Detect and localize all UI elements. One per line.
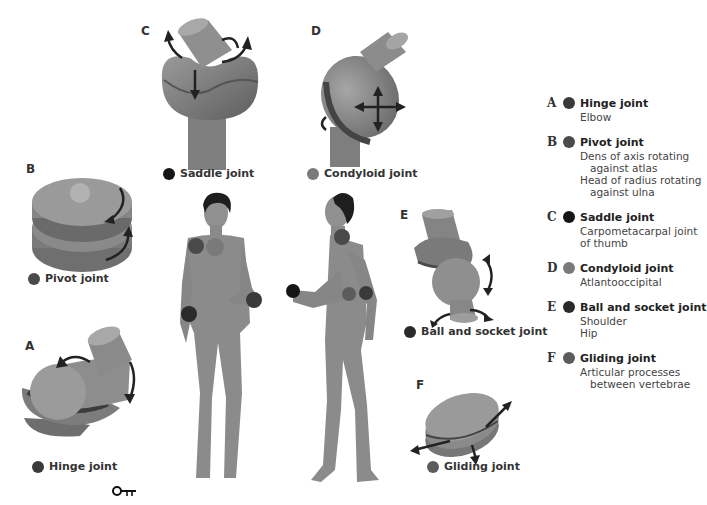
legend-item-gliding: FGliding joint Articular processes betwe… [547, 350, 707, 390]
caption-gliding-joint: Gliding joint [427, 460, 520, 473]
hinge-joint-marker-icon [32, 461, 44, 473]
caption-ball-and-socket-joint: Ball and socket joint [404, 325, 548, 338]
saddle-joint-illustration [150, 20, 270, 170]
legend-letter: F [547, 351, 563, 365]
saddle-joint-marker-icon [163, 168, 175, 180]
legend-line: against ulna [580, 186, 707, 198]
legend-letter: B [547, 135, 563, 149]
side-human-figure [285, 190, 385, 490]
legend-title: Saddle joint [580, 211, 654, 224]
gliding-joint-marker-icon [563, 352, 575, 364]
condyloid-joint-marker-icon [563, 262, 575, 274]
legend-line: Carpometacarpal joint [580, 225, 707, 237]
hinge-joint-marker-icon [563, 97, 575, 109]
ball-and-socket-joint-marker-icon [563, 301, 575, 313]
gliding-joint-marker-icon [427, 461, 439, 473]
caption-condyloid-joint: Condyloid joint [307, 167, 418, 180]
legend-line: Shoulder [580, 315, 707, 327]
legend-title: Condyloid joint [580, 262, 674, 275]
legend-item-ball-and-socket: EBall and socket joint Shoulder Hip [547, 299, 707, 339]
legend-item-pivot: BPivot joint Dens of axis rotating again… [547, 134, 707, 198]
caption-text: Condyloid joint [324, 167, 418, 180]
legend-item-hinge: AHinge joint Elbow [547, 95, 707, 123]
panel-letter-b: B [26, 162, 35, 176]
legend-line: of thumb [580, 237, 707, 249]
legend-line: Dens of axis rotating [580, 150, 707, 162]
pivot-joint-illustration [30, 180, 140, 280]
caption-text: Gliding joint [444, 460, 520, 473]
ball-and-socket-joint-illustration [410, 210, 510, 325]
panel-letter-c: C [141, 24, 150, 38]
caption-text: Pivot joint [45, 272, 109, 285]
legend-letter: C [547, 210, 563, 224]
legend-line: Articular processes [580, 366, 707, 378]
caption-text: Saddle joint [180, 167, 254, 180]
legend-title: Gliding joint [580, 352, 656, 365]
saddle-joint-marker-icon [563, 211, 575, 223]
caption-text: Hinge joint [49, 460, 117, 473]
gliding-joint-illustration [410, 383, 515, 463]
legend-letter: A [547, 96, 563, 110]
legend-line: Head of radius rotating [580, 174, 707, 186]
legend-title: Hinge joint [580, 97, 648, 110]
panel-letter-e: E [400, 208, 408, 222]
front-human-figure [178, 193, 268, 483]
condyloid-joint-marker-icon [307, 168, 319, 180]
legend-title: Pivot joint [580, 136, 644, 149]
legend-line: Elbow [580, 111, 611, 123]
legend-title: Ball and socket joint [580, 301, 707, 314]
hinge-joint-illustration [20, 330, 150, 435]
ball-and-socket-joint-marker-icon [404, 326, 416, 338]
caption-saddle-joint: Saddle joint [163, 167, 254, 180]
legend-line: against atlas [580, 162, 707, 174]
legend-letter: E [547, 300, 563, 314]
legend-line: Hip [580, 327, 707, 339]
legend-letter: D [547, 261, 563, 275]
caption-text: Ball and socket joint [421, 325, 548, 338]
legend-line: Atlantooccipital [580, 276, 662, 288]
caption-hinge-joint: Hinge joint [32, 460, 117, 473]
caption-pivot-joint: Pivot joint [28, 272, 109, 285]
legend-line: between vertebrae [580, 378, 707, 390]
condyloid-joint-illustration [318, 32, 418, 172]
legend-item-saddle: CSaddle joint Carpometacarpal joint of t… [547, 209, 707, 249]
legend-item-condyloid: DCondyloid joint Atlantooccipital [547, 260, 707, 288]
pivot-joint-marker-icon [563, 136, 575, 148]
pivot-joint-marker-icon [28, 273, 40, 285]
key-icon [112, 485, 138, 497]
joint-legend: AHinge joint Elbow BPivot joint Dens of … [547, 95, 707, 401]
